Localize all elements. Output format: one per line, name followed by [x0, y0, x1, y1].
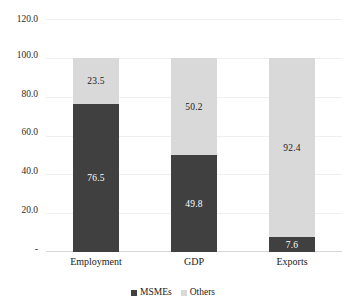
bar-segment-gdp-others[interactable]: 50.2 [171, 58, 217, 155]
y-axis-tick-120: 120.0 [0, 14, 38, 24]
stacked-bar-chart: 120.0 100.0 80.0 60.0 40.0 20.0 - 23.5 7… [0, 0, 346, 304]
bar-value-gdp-msmes: 49.8 [185, 199, 202, 209]
legend-label-others: Others [190, 287, 215, 298]
legend-item-others[interactable]: Others [181, 287, 215, 298]
y-axis-tick-60: 60.0 [0, 127, 38, 137]
legend-item-msmes[interactable]: MSMEs [131, 287, 172, 298]
bar-value-exports-others: 92.4 [283, 143, 300, 153]
bar-segment-gdp-msmes[interactable]: 49.8 [171, 155, 217, 252]
bar-segment-employment-others[interactable]: 23.5 [73, 58, 119, 104]
plot-area: 23.5 76.5 50.2 49.8 92.4 [46, 19, 342, 252]
bar-segment-exports-msmes[interactable]: 7.6 [269, 237, 315, 252]
bar-stack-gdp[interactable]: 50.2 49.8 [171, 58, 217, 252]
y-axis-tick-0: - [0, 244, 38, 254]
bar-group-gdp: 50.2 49.8 [171, 19, 217, 252]
bar-value-employment-others: 23.5 [87, 76, 104, 86]
bar-value-employment-msmes: 76.5 [87, 173, 104, 183]
chart-legend: MSMEs Others [0, 287, 346, 298]
bar-segment-exports-others[interactable]: 92.4 [269, 58, 315, 237]
bar-group-employment: 23.5 76.5 [73, 19, 119, 252]
y-axis-tick-20: 20.0 [0, 205, 38, 215]
legend-swatch-msmes-icon [131, 290, 137, 296]
y-axis-tick-40: 40.0 [0, 166, 38, 176]
bar-group-exports: 92.4 7.6 [269, 19, 315, 252]
bar-value-gdp-others: 50.2 [185, 102, 202, 112]
x-axis-label-exports: Exports [237, 256, 346, 268]
legend-swatch-others-icon [181, 290, 187, 296]
x-axis-label-gdp: GDP [139, 256, 249, 268]
chart-title [0, 0, 346, 5]
bar-stack-employment[interactable]: 23.5 76.5 [73, 58, 119, 252]
legend-label-msmes: MSMEs [140, 287, 172, 298]
bar-value-exports-msmes: 7.6 [286, 240, 298, 250]
y-axis-tick-80: 80.0 [0, 89, 38, 99]
bar-stack-exports[interactable]: 92.4 7.6 [269, 58, 315, 252]
bar-segment-employment-msmes[interactable]: 76.5 [73, 104, 119, 253]
x-axis-label-employment: Employment [41, 256, 151, 268]
y-axis-tick-100: 100.0 [0, 50, 38, 60]
